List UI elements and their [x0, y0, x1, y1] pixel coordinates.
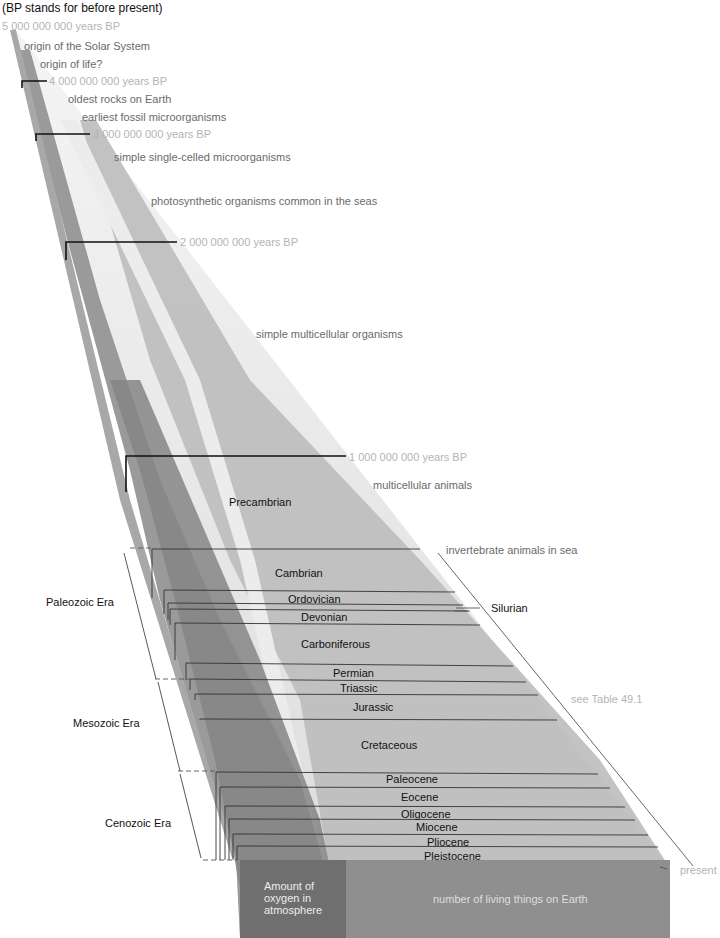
period-devonian: Devonian [301, 611, 347, 623]
present-label: present [680, 864, 717, 876]
period-paleocene: Paleocene [386, 773, 438, 785]
period-pliocene: Pliocene [427, 836, 469, 848]
event-photosynthetic: photosynthetic organisms common in the s… [151, 195, 377, 207]
era-cenozoic: Cenozoic Era [105, 817, 171, 829]
precambrian-label: Precambrian [229, 496, 291, 508]
oxygen-label: Amount of oxygen in atmosphere [264, 880, 334, 916]
period-pleistocene: Pleistocene [424, 850, 481, 862]
period-jurassic: Jurassic [353, 701, 393, 713]
era-mesozoic: Mesozoic Era [73, 717, 140, 729]
time-marker-3bn: 3 000 000 000 years BP [93, 128, 211, 140]
time-marker-4bn: 4 000 000 000 years BP [49, 75, 167, 87]
period-oligocene: Oligocene [401, 808, 451, 820]
geologic-timeline-diagram: (BP stands for before present) 5 000 000… [0, 0, 720, 938]
event-invertebrates: invertebrate animals in sea [446, 544, 577, 556]
event-earliest-fossils: earliest fossil microorganisms [82, 111, 226, 123]
period-silurian: Silurian [491, 602, 528, 614]
period-eocene: Eocene [401, 791, 438, 803]
time-marker-5bn: 5 000 000 000 years BP [2, 20, 120, 32]
event-oldest-rocks: oldest rocks on Earth [68, 93, 171, 105]
period-cretaceous: Cretaceous [361, 739, 417, 751]
period-carboniferous: Carboniferous [301, 638, 370, 650]
event-single-celled: simple single-celled microorganisms [114, 151, 291, 163]
timeline-wedge-graphic [0, 0, 720, 938]
era-paleozoic: Paleozoic Era [46, 596, 114, 608]
period-cambrian: Cambrian [275, 567, 323, 579]
caption: (BP stands for before present) [2, 2, 163, 14]
period-miocene: Miocene [416, 821, 458, 833]
see-table-label: see Table 49.1 [571, 693, 642, 705]
event-multicellular-organisms: simple multicellular organisms [256, 328, 403, 340]
event-multicellular-animals: multicellular animals [373, 479, 472, 491]
period-triassic: Triassic [340, 682, 377, 694]
time-marker-2bn: 2 000 000 000 years BP [180, 236, 298, 248]
time-marker-1bn: 1 000 000 000 years BP [349, 451, 467, 463]
period-ordovician: Ordovician [288, 593, 341, 605]
event-origin-of-life: origin of life? [40, 58, 102, 70]
period-permian: Permian [333, 667, 374, 679]
event-solar-system: origin of the Solar System [24, 40, 150, 52]
living-things-label: number of living things on Earth [433, 893, 588, 905]
